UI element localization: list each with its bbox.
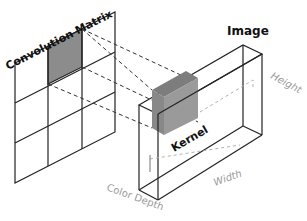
height-label: Height <box>269 70 304 96</box>
color-depth-label: Color Depth <box>105 182 165 213</box>
width-label: Width <box>212 168 243 188</box>
image-title: Image <box>227 24 269 38</box>
convolution-diagram: Convolution Matrix Image Kernel Height W… <box>0 0 307 221</box>
kernel-cube <box>152 71 198 135</box>
